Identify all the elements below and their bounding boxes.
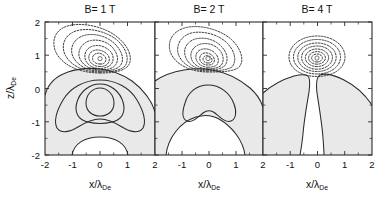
- y-axis-label-main: z/: [4, 91, 16, 99]
- x-axis-label-b2t: x/λDe: [198, 178, 220, 191]
- x-axis-label-main-b4t: x/: [306, 178, 314, 190]
- panel-b1t: B= 1 T: [41, 3, 158, 191]
- panel-title-b1t: B= 1 T: [84, 3, 116, 15]
- panel-b2t: B= 2 T: [155, 3, 266, 191]
- y-axis-label-sub: De: [10, 77, 17, 86]
- x-tick-label-b2t-3: 1: [233, 159, 238, 170]
- y-tick-label-0: 2: [35, 17, 40, 28]
- x-tick-label-b1t-1: -1: [68, 159, 76, 170]
- panel-title-b4t: B= 4 T: [301, 3, 333, 15]
- x-tick-label-b2t-1: -1: [178, 159, 186, 170]
- x-axis-label-main-b1t: x/: [89, 178, 97, 190]
- panel-b4t: B= 4 T: [263, 3, 375, 191]
- y-axis-label: z/λDe: [4, 77, 17, 99]
- x-axis-label-sub-b1t: De: [102, 184, 111, 191]
- panel-b2t-contours: [155, 22, 263, 155]
- x-tick-label-b1t-4: 2: [152, 159, 157, 170]
- x-tick-label-b4t-2: 0: [315, 159, 320, 170]
- y-tick-label-4: -2: [32, 150, 40, 161]
- y-tick-label-2: 0: [35, 84, 40, 95]
- panel-b1t-contours: [45, 22, 155, 155]
- x-tick-label-b2t-4: 2: [260, 159, 265, 170]
- svg-text:z/λDe: z/λDe: [4, 77, 17, 99]
- x-tick-label-b1t-3: 1: [125, 159, 130, 170]
- x-tick-label-b4t-3: 1: [342, 159, 347, 170]
- x-axis-label-b1t: x/λDe: [89, 178, 111, 191]
- panel-title-b2t: B= 2 T: [193, 3, 225, 15]
- dust-grain-marker-b2t: [206, 57, 210, 61]
- x-tick-label-b4t-1: -1: [286, 159, 294, 170]
- dust-grain-marker-b1t: [98, 57, 102, 61]
- panel-b4t-contours: [263, 22, 372, 155]
- contour-figure: z/λDe 2 1 0 -1 -2 B= 1 T: [0, 0, 389, 198]
- x-tick-label-b2t-2: 0: [206, 159, 211, 170]
- x-axis-label-b4t: x/λDe: [306, 178, 328, 191]
- x-axis-label-main-b2t: x/: [198, 178, 206, 190]
- x-axis-label-sub-b4t: De: [319, 184, 328, 191]
- dust-grain-marker-b4t: [315, 56, 319, 60]
- y-tick-label-1: 1: [35, 50, 40, 61]
- x-tick-label-b4t-4: 2: [369, 159, 374, 170]
- y-tick-label-3: -1: [32, 117, 40, 128]
- x-tick-label-b1t-0: -2: [41, 159, 49, 170]
- x-axis-label-sub-b2t: De: [211, 184, 220, 191]
- figure-root: z/λDe 2 1 0 -1 -2 B= 1 T: [0, 0, 389, 198]
- x-tick-label-b1t-2: 0: [97, 159, 102, 170]
